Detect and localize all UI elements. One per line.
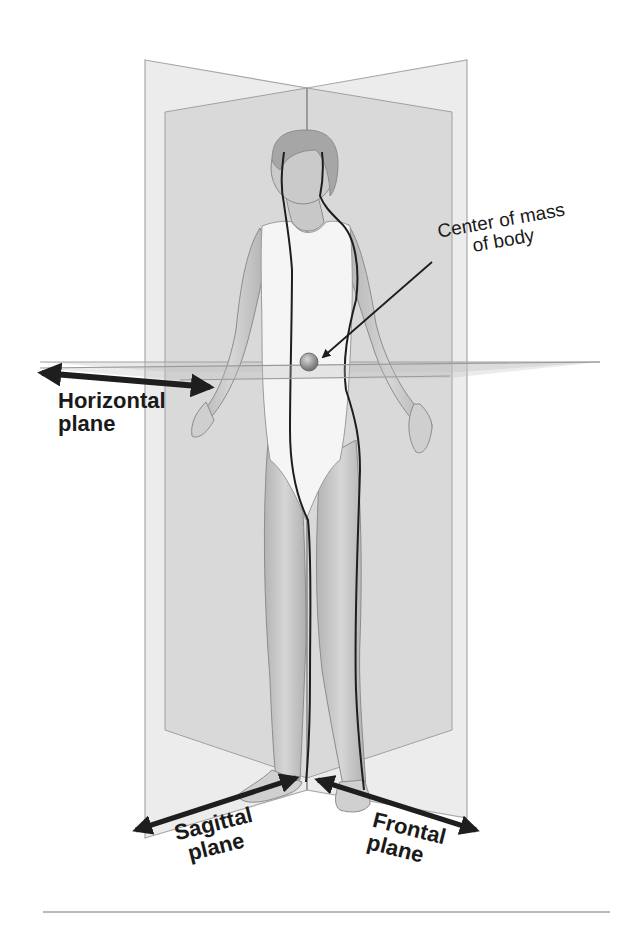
horizontal-plane-label-line1: Horizontal (58, 389, 166, 412)
body-planes-figure: Center of mass of body Horizontal plane … (0, 0, 630, 928)
center-of-mass-marker (300, 353, 318, 371)
horizontal-plane-label: Horizontal plane (58, 389, 166, 435)
horizontal-plane-label-line2: plane (58, 412, 166, 435)
figure-canvas (0, 0, 630, 928)
